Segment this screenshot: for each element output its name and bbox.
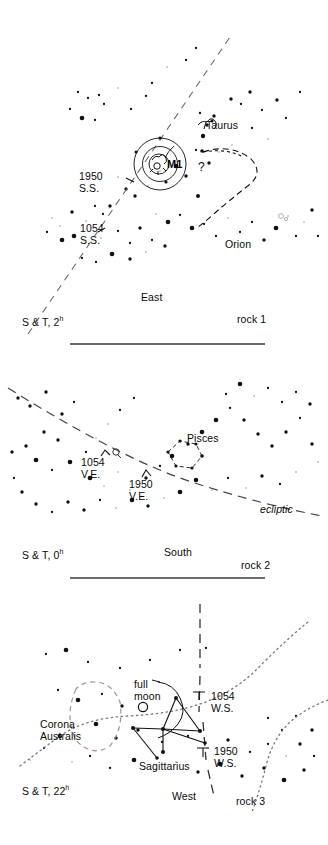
- star-point: [51, 511, 53, 513]
- star-point: [239, 231, 241, 233]
- taurus-star-1: [201, 134, 205, 138]
- orion-bow-bottom-star: [196, 194, 200, 198]
- label-1054-ss-line2: S.S.: [80, 234, 100, 247]
- star-point: [227, 477, 229, 479]
- star-point: [262, 238, 265, 241]
- m1-ring-star-left: [135, 151, 138, 154]
- star-point: [72, 234, 77, 239]
- star-point: [159, 465, 161, 467]
- star-point: [267, 138, 269, 140]
- label-corona-line1: Corona: [40, 718, 75, 731]
- star-point: [231, 144, 233, 146]
- star-point: [218, 151, 220, 153]
- star-point: [85, 451, 87, 453]
- star-point: [89, 755, 91, 757]
- star-point: [279, 483, 281, 485]
- star-point: [56, 438, 59, 441]
- star-point: [151, 82, 153, 84]
- star-point: [107, 423, 109, 425]
- star-point: [227, 217, 229, 219]
- label-question-mark: ?: [198, 161, 205, 173]
- label-rock-2: rock 2: [241, 559, 270, 571]
- star-point: [70, 210, 73, 213]
- star-point: [185, 59, 187, 61]
- label-sagittarius: Sagittarius: [139, 760, 190, 772]
- star-point: [159, 170, 161, 172]
- star-point: [44, 390, 47, 393]
- star-point: [317, 461, 319, 463]
- star-point: [130, 108, 132, 110]
- star-point: [303, 221, 305, 223]
- star-point: [226, 738, 229, 741]
- star-point: [119, 667, 121, 669]
- pisces-star-4: [200, 454, 204, 458]
- star-point: [240, 103, 242, 105]
- star-point: [267, 387, 269, 389]
- star-point: [194, 478, 199, 483]
- star-point: [146, 504, 149, 507]
- label-1950-ss-line1: 1950: [79, 170, 103, 183]
- label-rock-3: rock 3: [236, 795, 265, 807]
- star-point: [214, 418, 219, 423]
- star-point: [95, 261, 97, 263]
- star-point: [87, 661, 89, 663]
- star-point: [242, 418, 245, 421]
- star-point: [110, 252, 115, 257]
- star-point: [295, 471, 297, 473]
- star-point: [267, 717, 269, 719]
- star-point: [249, 751, 251, 753]
- star-point: [102, 213, 104, 215]
- star-point: [240, 774, 243, 777]
- star-point: [98, 94, 100, 96]
- label-1950-ve-line2: V.E.: [129, 490, 148, 503]
- star-point: [163, 497, 165, 499]
- sagittarius-star-2: [161, 727, 165, 731]
- star-point: [166, 66, 168, 68]
- star-point: [119, 409, 121, 411]
- star-point: [76, 698, 81, 703]
- label-ecliptic: ecliptic: [260, 503, 293, 515]
- star-point: [46, 231, 48, 233]
- star-chart-figure: Taurus M1 ? 1950 S.S. 1054 S.S. Orion Ea…: [0, 0, 328, 845]
- star-point: [24, 444, 27, 447]
- star-point: [282, 778, 287, 783]
- star-point: [94, 722, 99, 727]
- star-point: [212, 114, 215, 117]
- sagittarius-star-5: [161, 750, 165, 754]
- star-point: [287, 215, 289, 217]
- star-point: [149, 659, 151, 661]
- star-point: [103, 103, 105, 105]
- star-point: [82, 508, 85, 511]
- label-rock-1: rock 1: [237, 313, 266, 325]
- sagittarius-star-7: [203, 741, 207, 745]
- label-south: South: [164, 546, 192, 558]
- star-point: [145, 251, 147, 253]
- star-point: [310, 442, 313, 445]
- star-point: [42, 430, 45, 433]
- star-point: [99, 499, 101, 501]
- star-point: [10, 450, 13, 453]
- star-point: [117, 87, 119, 89]
- star-point: [103, 485, 105, 487]
- star-point: [195, 149, 197, 151]
- orion-bow-top-star: [200, 149, 204, 153]
- star-point: [133, 194, 136, 197]
- sagittarius-star-3: [198, 729, 202, 733]
- star-point: [229, 97, 232, 100]
- star-point: [60, 412, 63, 415]
- star-point: [275, 98, 278, 101]
- star-point: [215, 235, 217, 237]
- label-full-moon-line2: moon: [134, 690, 161, 703]
- star-point: [302, 768, 305, 771]
- star-point: [28, 404, 31, 407]
- label-full-moon-line1: full: [134, 678, 148, 691]
- star-point: [51, 469, 53, 471]
- star-point: [51, 217, 53, 219]
- star-point: [94, 205, 96, 207]
- star-point: [251, 221, 253, 223]
- star-point: [248, 90, 251, 93]
- star-point: [94, 119, 96, 121]
- star-point: [69, 108, 71, 110]
- star-point: [151, 239, 153, 241]
- star-point: [73, 401, 75, 403]
